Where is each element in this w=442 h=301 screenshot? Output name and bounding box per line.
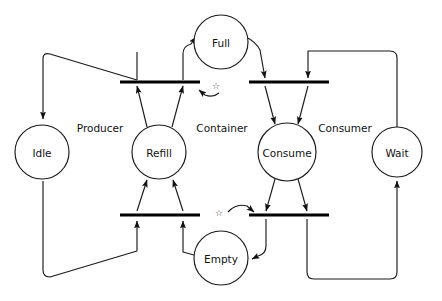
place-empty[interactable]: Empty <box>194 231 248 285</box>
place-refill-label: Refill <box>146 147 172 159</box>
arc-consumer-start-to-consume-right <box>298 86 308 124</box>
place-full[interactable]: Full <box>194 15 248 69</box>
arc-refill-to-producer-start-left <box>137 86 147 127</box>
arc-token-lower-curve <box>228 205 254 212</box>
token-layer: ☆ ☆ <box>212 81 223 218</box>
arc-full-to-consumer-start <box>246 37 265 78</box>
arc-consume-to-consumer-finish-left <box>266 179 275 211</box>
token-star-lower-icon: ☆ <box>215 208 223 218</box>
place-refill[interactable]: Refill <box>132 125 186 179</box>
group-label-container: Container <box>196 122 248 134</box>
group-label-layer: Producer Container Consumer <box>77 122 373 134</box>
arc-empty-to-producer-finish <box>183 221 194 255</box>
place-idle-label: Idle <box>32 147 51 159</box>
place-idle[interactable]: Idle <box>15 125 69 179</box>
place-layer: Full Idle Refill Consume Wait Empty <box>15 15 422 285</box>
place-empty-label: Empty <box>204 253 238 265</box>
token-star-upper-icon: ☆ <box>212 81 220 91</box>
arc-consume-to-consumer-finish-right <box>298 179 307 211</box>
group-label-producer: Producer <box>77 122 124 134</box>
place-wait-label: Wait <box>385 147 408 159</box>
arc-producer-finish-to-refill-left <box>137 180 147 211</box>
arc-consumer-finish-to-empty <box>252 219 266 259</box>
place-consume-label: Consume <box>262 147 311 159</box>
arc-refill-to-producer-start-right <box>172 86 183 127</box>
arc-producer-finish-to-refill-right <box>173 180 183 211</box>
place-full-label: Full <box>212 37 230 49</box>
arc-producer-start-to-idle <box>43 54 137 119</box>
place-wait[interactable]: Wait <box>372 127 422 177</box>
diagram-canvas: Full Idle Refill Consume Wait Empty Prod… <box>0 0 442 301</box>
arc-idle-to-producer-finish <box>43 181 137 277</box>
place-consume[interactable]: Consume <box>258 123 316 181</box>
petri-net-diagram: Full Idle Refill Consume Wait Empty Prod… <box>0 0 442 301</box>
arc-wait-to-consumer-start <box>308 51 397 127</box>
arc-consumer-start-to-consume-left <box>265 86 275 124</box>
group-label-consumer: Consumer <box>318 122 372 134</box>
arc-consumer-finish-to-wait <box>307 181 397 279</box>
